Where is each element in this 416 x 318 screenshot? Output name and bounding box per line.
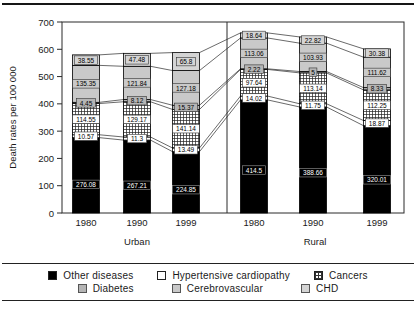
value-label: 112.25 bbox=[367, 102, 387, 109]
value-label: 414.5 bbox=[246, 167, 263, 174]
legend-label: CHD bbox=[316, 283, 338, 294]
plot-frame bbox=[62, 22, 404, 213]
bar-segment-other-diseases bbox=[300, 107, 327, 213]
value-label: 4.45 bbox=[80, 100, 93, 107]
panel-label: Urban bbox=[124, 236, 150, 247]
bar-segment-other-diseases bbox=[364, 126, 391, 213]
value-label: 320.01 bbox=[367, 176, 387, 183]
legend-item-diabetes: Diabetes bbox=[78, 283, 134, 294]
connector-line bbox=[100, 135, 124, 137]
x-tick-label: 1990 bbox=[302, 217, 323, 228]
connector-line bbox=[100, 65, 124, 66]
connector-line bbox=[100, 138, 124, 140]
y-tick-label: 300 bbox=[38, 126, 54, 137]
value-label: 388.66 bbox=[303, 169, 323, 176]
value-label: 8.12 bbox=[131, 97, 144, 104]
value-label: 2.22 bbox=[248, 66, 261, 73]
value-label: 111.62 bbox=[368, 69, 387, 76]
chart-legend: Other diseases Hypertensive cardiopathy … bbox=[2, 263, 414, 301]
connector-line bbox=[151, 140, 173, 152]
x-tick-label: 1999 bbox=[175, 217, 196, 228]
value-label: 141.14 bbox=[176, 125, 196, 132]
value-label: 224.85 bbox=[176, 186, 196, 193]
gray-swatch-icon bbox=[301, 284, 310, 293]
legend-row-2: Diabetes Cerebrovascular CHD bbox=[2, 283, 414, 294]
value-label: 22.82 bbox=[305, 37, 322, 44]
connector-line bbox=[268, 96, 300, 104]
connector-line bbox=[151, 66, 173, 70]
value-label: 18.87 bbox=[369, 120, 386, 127]
panel-label: Rural bbox=[304, 236, 327, 247]
legend-item-other-diseases: Other diseases bbox=[48, 270, 133, 281]
connector-line bbox=[100, 53, 124, 55]
y-tick-label: 600 bbox=[38, 44, 54, 55]
y-tick-label: 200 bbox=[38, 153, 54, 164]
legend-item-cerebrovascular: Cerebrovascular bbox=[172, 283, 263, 294]
bar-segment-other-diseases bbox=[241, 100, 268, 213]
legend-item-hypertensive: Hypertensive cardiopathy bbox=[157, 270, 290, 281]
legend-label: Diabetes bbox=[93, 283, 134, 294]
value-label: 114.55 bbox=[76, 116, 96, 123]
y-axis-title: Death rates per 100 000 bbox=[7, 66, 18, 168]
death-rates-figure: 0100200300400500600700Death rates per 10… bbox=[0, 0, 416, 318]
connector-line bbox=[268, 100, 300, 107]
gray-swatch-icon bbox=[172, 284, 181, 293]
x-tick-label: 1980 bbox=[243, 217, 264, 228]
value-label: 276.08 bbox=[76, 181, 96, 188]
value-label: 65.8 bbox=[180, 58, 193, 65]
connector-line bbox=[327, 107, 364, 126]
legend-label: Cerebrovascular bbox=[187, 283, 263, 294]
legend-row-1: Other diseases Hypertensive cardiopathy … bbox=[2, 270, 414, 281]
value-label: 129.17 bbox=[127, 116, 147, 123]
value-label: 10.57 bbox=[78, 133, 95, 140]
value-label: 267.21 bbox=[127, 182, 147, 189]
y-tick-label: 100 bbox=[38, 180, 54, 191]
value-label: 47.48 bbox=[129, 56, 146, 63]
legend-item-chd: CHD bbox=[301, 283, 338, 294]
x-tick-label: 1999 bbox=[366, 217, 387, 228]
value-label: 8.33 bbox=[371, 85, 384, 92]
value-label: 135.35 bbox=[76, 80, 96, 87]
connector-line bbox=[327, 37, 364, 49]
value-label: 121.84 bbox=[127, 80, 147, 87]
value-label: 38.55 bbox=[78, 57, 95, 64]
connector-line bbox=[327, 72, 364, 88]
value-label: 30.38 bbox=[369, 50, 386, 57]
black-swatch-icon bbox=[48, 271, 57, 280]
connector-line bbox=[200, 69, 241, 105]
y-tick-label: 400 bbox=[38, 98, 54, 109]
legend-label: Cancers bbox=[329, 270, 368, 281]
value-label: 18.64 bbox=[246, 32, 263, 39]
legend-item-cancers: Cancers bbox=[314, 270, 368, 281]
bar-segment-other-diseases bbox=[73, 138, 100, 213]
value-label: 5 bbox=[311, 69, 315, 76]
value-label: 15.37 bbox=[178, 104, 195, 111]
white-swatch-icon bbox=[157, 271, 166, 280]
connector-line bbox=[268, 33, 300, 37]
connector-line bbox=[151, 137, 173, 148]
gray-swatch-icon bbox=[78, 284, 87, 293]
connector-line bbox=[268, 38, 300, 43]
bar-segment-other-diseases bbox=[124, 140, 151, 213]
legend-label: Other diseases bbox=[63, 270, 133, 281]
bar-segment-other-diseases bbox=[173, 152, 200, 213]
value-label: 11.75 bbox=[305, 102, 321, 109]
x-tick-label: 1980 bbox=[75, 217, 96, 228]
connector-line bbox=[151, 53, 173, 54]
value-label: 97.64 bbox=[246, 79, 263, 86]
x-tick-label: 1990 bbox=[126, 217, 147, 228]
connector-line bbox=[151, 100, 173, 106]
value-label: 14.02 bbox=[246, 95, 263, 102]
crosshatch-swatch-icon bbox=[314, 271, 323, 280]
y-tick-label: 0 bbox=[49, 208, 54, 219]
value-label: 103.93 bbox=[303, 54, 323, 61]
legend-label: Hypertensive cardiopathy bbox=[172, 270, 290, 281]
connector-line bbox=[200, 100, 241, 152]
stacked-bar-chart: 0100200300400500600700Death rates per 10… bbox=[0, 0, 416, 260]
connector-line bbox=[327, 73, 364, 90]
value-label: 113.06 bbox=[244, 50, 264, 57]
value-label: 13.49 bbox=[178, 146, 195, 153]
connector-line bbox=[151, 102, 173, 110]
connector-line bbox=[327, 104, 364, 121]
value-label: 113.14 bbox=[303, 85, 323, 92]
